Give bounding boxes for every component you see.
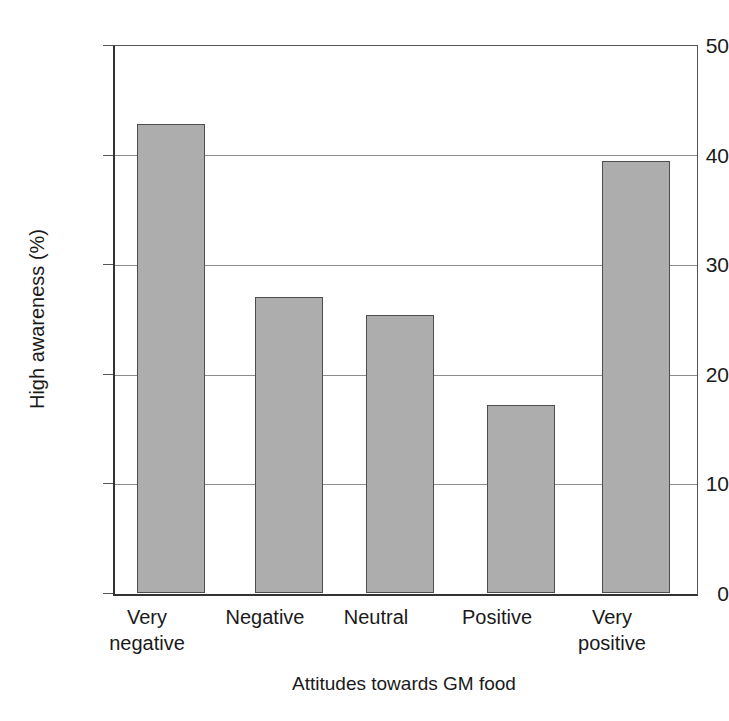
gridline-30 bbox=[115, 265, 697, 266]
y-tick-mark-40 bbox=[103, 155, 113, 156]
y-axis-title: High awareness (%) bbox=[20, 45, 54, 593]
x-tick-label-very-positive: Very positive bbox=[552, 604, 672, 656]
y-tick-mark-20 bbox=[103, 374, 113, 375]
x-axis-title: Attitudes towards GM food bbox=[113, 672, 695, 696]
bar-chart-figure: High awareness (%) 50 40 30 20 10 0 Very… bbox=[0, 0, 729, 721]
x-tick-label-neutral: Neutral bbox=[316, 604, 436, 630]
y-tick-mark-30 bbox=[103, 264, 113, 265]
x-tick-label-very-negative: Very negative bbox=[87, 604, 207, 656]
y-tick-mark-10 bbox=[103, 483, 113, 484]
plot-area bbox=[113, 45, 698, 596]
gridline-40 bbox=[115, 155, 697, 156]
x-tick-label-positive: Positive bbox=[437, 604, 557, 630]
gridline-10 bbox=[115, 484, 697, 485]
gridline-20 bbox=[115, 375, 697, 376]
y-tick-mark-0 bbox=[103, 593, 113, 594]
y-tick-mark-50 bbox=[103, 45, 113, 46]
x-tick-label-negative: Negative bbox=[205, 604, 325, 630]
